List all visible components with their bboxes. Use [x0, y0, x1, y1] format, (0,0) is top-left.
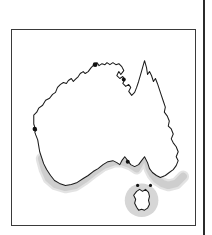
bight-inlet-marker — [126, 160, 130, 164]
figure-root: Outline map of Australia with a grey sha… — [0, 0, 212, 235]
column-rule — [203, 0, 205, 235]
north-coast-marker — [93, 62, 98, 67]
tasmania-inlet-marker-right — [149, 184, 152, 187]
gulf-marker — [122, 78, 126, 82]
west-coast-marker — [33, 127, 37, 131]
tasmania-inlet-marker-left — [136, 184, 139, 187]
tasmania-outline — [134, 189, 150, 210]
map-frame: Outline map of Australia with a grey sha… — [11, 29, 196, 226]
australia-map — [12, 30, 195, 225]
